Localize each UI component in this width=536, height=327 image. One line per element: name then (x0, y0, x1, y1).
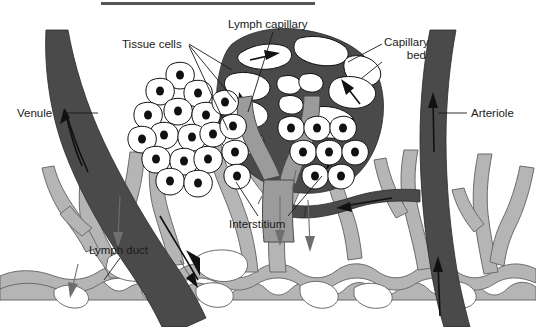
label-lymph-duct: Lymph duct (89, 244, 149, 256)
label-tissue-cells: Tissue cells (122, 38, 182, 50)
label-capillary-bed-line1: Capillary (384, 36, 429, 48)
tissue-cell (342, 140, 368, 165)
tissue-cell (222, 140, 248, 165)
tissue-cell (304, 116, 330, 141)
label-arteriole: Arteriole (471, 107, 514, 119)
tissue-cell (316, 140, 342, 165)
tissue-cell (194, 146, 222, 173)
tissue-cell (302, 164, 328, 189)
tissue-cell (220, 114, 246, 139)
diagram-canvas: Tissue cells Lymph capillary Capillary b… (0, 0, 536, 327)
tissue-cell (290, 140, 316, 165)
tissue-cell (184, 170, 212, 197)
tissue-cell (164, 98, 192, 125)
tissue-cell (156, 168, 184, 195)
label-capillary-bed-line2: bed (407, 49, 426, 61)
label-lymph-capillary: Lymph capillary (228, 18, 308, 30)
tissue-cell (212, 90, 238, 115)
label-interstitium: Interstitium (229, 218, 285, 230)
tissue-cell (224, 164, 250, 189)
tissue-cell (328, 164, 354, 189)
label-venule: Venule (17, 107, 52, 119)
tissue-cell (278, 116, 304, 141)
lymphatic-capillary-diagram: Tissue cells Lymph capillary Capillary b… (0, 0, 536, 327)
tissue-cell (330, 116, 356, 141)
top-rule (101, 2, 315, 5)
